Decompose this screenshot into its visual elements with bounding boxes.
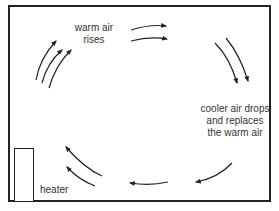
rising-arrow-3 <box>49 50 71 88</box>
top-arrow-1 <box>131 26 166 31</box>
descending-arrow-2 <box>226 38 248 81</box>
airflow-arrows <box>0 0 279 211</box>
bottom-arrow-1 <box>196 163 232 182</box>
top-arrow-2 <box>131 38 167 41</box>
bottom-arrow-2 <box>130 182 168 184</box>
